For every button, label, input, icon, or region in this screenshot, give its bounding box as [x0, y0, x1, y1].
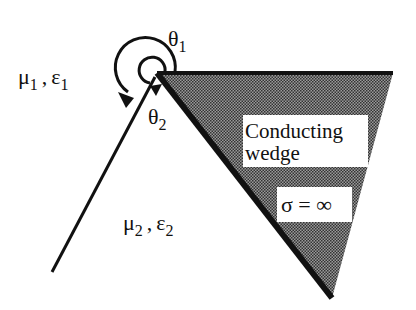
dielectric-interface-line	[52, 77, 155, 272]
wedge-label-line1: Conducting	[245, 119, 343, 143]
theta2-arrowhead-icon	[150, 84, 162, 96]
theta2-label: θ2	[148, 104, 167, 133]
region2-label: μ2,ε2	[123, 210, 174, 239]
conducting-wedge	[157, 73, 393, 298]
wedge-label-line2: wedge	[245, 141, 300, 165]
wedge-diagram: θ1 θ2 μ1,ε1 μ2,ε2 Conducting wedge σ = ∞	[0, 0, 416, 310]
theta1-arrowhead-icon	[118, 92, 134, 108]
theta1-label: θ1	[168, 26, 187, 55]
region1-label: μ1,ε1	[18, 64, 69, 93]
conductivity-label: σ = ∞	[281, 192, 332, 217]
